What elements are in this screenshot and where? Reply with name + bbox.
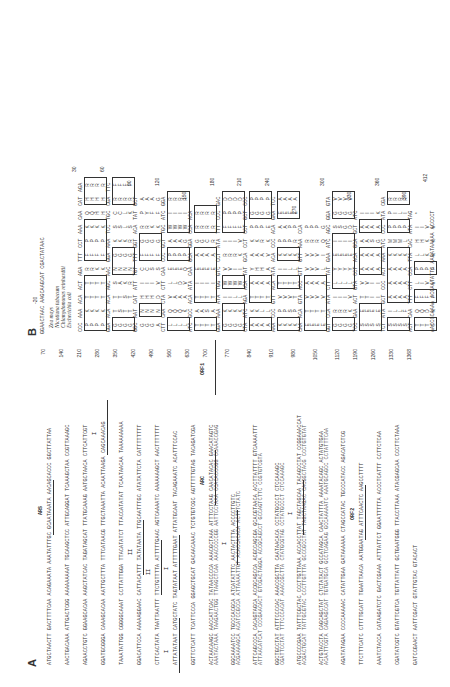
identity-box	[387, 219, 410, 233]
position-number: 140	[58, 349, 64, 358]
amino-acid-column: TTST	[113, 290, 134, 304]
sequence-text: CGATATCGTC GTATTCGTCA TGTTATTATT GCTGAAT…	[395, 425, 401, 665]
amino-acid-column: KKLL	[250, 304, 271, 318]
sequence-text-second-strand: ATTAACATCAT CCCGAACACT GTCGACTAGGA ACCGC…	[258, 453, 264, 665]
alignment-block: 300GGTCCAATACTTTATGAAATCAGCGGAGTAGGGGRRR…	[326, 12, 356, 332]
amino-acid-column: IIIV	[333, 290, 354, 304]
amino-acid-column: KKRK	[250, 234, 271, 248]
panel-b-protein-alignment: B -20 GGAACTAAC AAGCAAGCAT CGACTATAAC Ze…	[0, 0, 450, 342]
amino-acid-column: ILLF	[388, 304, 409, 318]
sequence-annotation: I	[92, 432, 98, 435]
position-number: 180	[209, 178, 215, 186]
sequence-row: AGATATAGAA CCCCAAAAAC CATATTGAA GATAAAAA…	[332, 345, 350, 665]
sequence-row: AACTGACAAA ATTGACTCGG AAAAAAAAAT TGCAAGC…	[56, 345, 74, 665]
position-number: 490	[148, 349, 154, 358]
amino-acid-column: CCLK	[113, 206, 134, 220]
amino-acid-column: YHHA	[250, 262, 271, 276]
identity-box	[194, 205, 217, 233]
amino-acid-column: VVVT	[278, 290, 299, 304]
amino-acid-column: IILL	[223, 290, 244, 304]
amino-acid-column: IIIV	[223, 234, 244, 248]
codon: CCT	[216, 253, 222, 262]
codon: ATA	[326, 295, 332, 304]
position-number: 210	[76, 349, 82, 358]
alignment-block: 180GGAAAAATATGGGTCCCTATATTTCCCGACGGGGKKK…	[216, 12, 246, 332]
codon: CCT	[243, 225, 249, 234]
identity-box	[387, 317, 410, 331]
sequence-text-second-strand: CGATTCCTAT TTTCCCACAT AAACCGCTTA CTATGCG…	[280, 463, 286, 665]
codon: CTA	[161, 295, 167, 304]
amino-acid-column: PPPR	[278, 234, 299, 248]
sequence-row: GGACATTCCA AAAAAGGAAC CATTACATTT TATATAA…	[128, 345, 146, 665]
position-number: 120	[154, 178, 160, 186]
amino-acid-column: QQHH	[85, 206, 106, 220]
sequence-row: GGCAAAATCC TGCCCACGCA ATCATATTTC AACTACT…	[222, 345, 244, 665]
amino-acid-column: HHHD	[140, 290, 161, 304]
codon: GTT	[298, 253, 304, 262]
sequence-annotation: I	[222, 542, 228, 545]
amino-acid-column: RRKK	[140, 220, 161, 234]
alignment-block: 210CTAATCAGAACATATGCACCTCCTGCTCCCAAAAKKL…	[243, 12, 273, 332]
amino-acid-column: IIIV	[140, 276, 161, 290]
codon: ACA	[271, 225, 277, 234]
dna-sequence-rows: ATGCTAACTT GACTTTTCAA ACAGAAATA AAATATTT…	[38, 345, 422, 665]
position-number: 910	[268, 349, 274, 358]
sequence-row: CGATATCGTC GTATTCGTCA TGTTATTATT GCTGAAT…	[386, 345, 404, 665]
amino-acid-column: VAAA	[168, 290, 189, 304]
identity-box	[222, 191, 245, 233]
amino-acid-column: RRRK	[333, 304, 354, 318]
codon: CAA	[161, 267, 167, 276]
codon: GTA	[353, 281, 359, 290]
sequence-row: AAATCTACCA CATAAGATCTC GACTCGAAA ATTTATT…	[368, 345, 386, 665]
downstream-sequence: AACCCCAAAA ACGAATATTC AAGATAAAAA ACCCCT …	[430, 211, 436, 332]
amino-acid-column: AAAG	[168, 234, 189, 248]
identity-box	[359, 303, 382, 331]
sequence-annotation: II	[128, 549, 134, 555]
amino-acid-column: RRRQ	[305, 234, 326, 248]
sequence-text: GATCCGAACT AATTCGACT GTATTGTAC GTACACT	[413, 545, 419, 665]
amino-acid-column: *	[415, 206, 420, 220]
codon: ATT	[133, 281, 139, 290]
position-number: 150	[181, 192, 187, 200]
panel-a-dna-sequence: A ATGCTAACTT GACTTTTCAA ACAGAAATA AAATAT…	[0, 342, 450, 687]
amino-acid-column: PPPE	[250, 220, 271, 234]
sequence-row: TAAATATTGG CGGGGCAAAT CCTTATTGGA TTACATA…	[110, 345, 128, 665]
codon: CCA	[298, 225, 304, 234]
alignment-block: 30CCCAAAACAACTAGATTTCCTAAACAACATAGAPPPPK…	[78, 12, 108, 332]
sequence-text: GGATGCGGGA CAAAGCACAA AATTGCTTTA TTTCATA…	[101, 421, 107, 665]
sequence-text: AGATATAGAA CCCCAAAAAC CATATTGAA GATAAAAA…	[341, 431, 347, 665]
underline-marker	[179, 535, 180, 590]
amino-acid-column: QQQK	[168, 304, 189, 318]
sequence-annotation: I	[164, 567, 170, 570]
sequence-row: AGAACCTGTC GGAAGCACAA AAGCTATCAC TAGATAG…	[74, 345, 92, 665]
position-number: 1120	[334, 349, 340, 360]
amino-acid-column: CCSS	[140, 262, 161, 276]
amino-acid-column: TSTT	[113, 304, 134, 318]
identity-box	[139, 303, 162, 317]
amino-acid-column: VVVI	[305, 248, 326, 262]
codon: TGT	[133, 267, 139, 276]
sequence-annotation: ORF2	[350, 508, 356, 520]
sequence-row: TTCTTTCATC CTTTTGCATT TGAATTAACA AATGGAA…	[350, 345, 368, 665]
sequence-row: GATCCGAACT AATTCGACT GTATTGTAC GTACACT13…	[404, 345, 422, 665]
sequence-text: ATGCTAACTT GACTTTTCAA ACAGAAATA AAATATTT…	[47, 428, 53, 665]
codon: TAT	[133, 211, 139, 220]
alignment-block: 360TCTATAGCTCCCACTAAAATCCCCATACGASSSSILL…	[381, 12, 411, 332]
identity-box	[194, 317, 217, 331]
sequence-row: ACTAACAAGC AACCATTCAC TATAACCCCA AAACGCT…	[200, 345, 222, 665]
position-number: 412	[422, 174, 428, 182]
sequence-text-second-strand: ACGACTGCAT TATTGCGTAC CCCTTGTTTA GCCCGCC…	[302, 425, 308, 665]
position-number: 280	[94, 349, 100, 358]
amino-acid-column: PPPG	[305, 220, 326, 234]
identity-box	[84, 177, 107, 205]
identity-box	[277, 275, 300, 289]
codon: CAC	[408, 239, 414, 248]
position-number: 360	[374, 178, 380, 186]
identity-box	[277, 247, 300, 261]
codon: CCT	[243, 239, 249, 248]
position-number: 980	[290, 349, 296, 358]
position-number: 630	[184, 349, 190, 358]
codon: TGC	[106, 211, 112, 220]
identity-box	[167, 247, 190, 261]
identity-box	[359, 219, 382, 233]
